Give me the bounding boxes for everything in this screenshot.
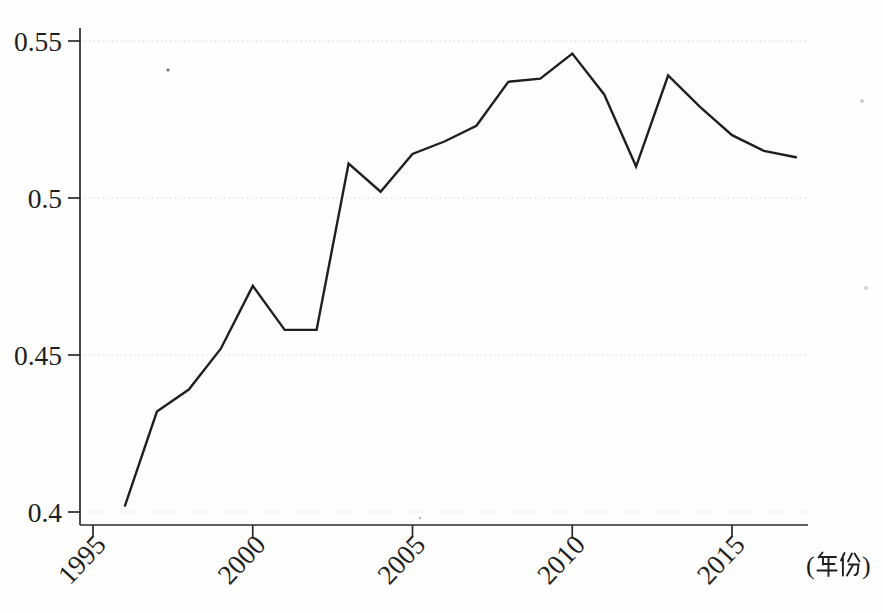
x-axis-unit-label: () <box>806 551 871 580</box>
cjk-glyph-fen <box>841 553 860 576</box>
x-tick-label: 2000 <box>211 529 271 590</box>
line-chart: 0.40.450.50.5519952000200520102015() <box>0 0 883 613</box>
x-tick-label: 2005 <box>371 529 431 590</box>
y-tick-label: 0.55 <box>14 26 62 57</box>
scan-speck <box>419 517 421 519</box>
scan-speck <box>864 286 868 290</box>
x-tick-label: 1995 <box>51 529 111 590</box>
data-line-series <box>125 54 796 506</box>
svg-text:): ) <box>862 551 871 580</box>
y-tick-label: 0.45 <box>14 340 62 371</box>
y-tick-label: 0.5 <box>28 183 62 214</box>
cjk-glyph-nian <box>818 553 837 577</box>
x-tick-label: 2010 <box>531 529 591 590</box>
line-chart-figure: (年份) 0.40.450.50.5519952000200520102015(… <box>0 0 883 613</box>
scan-speck <box>860 99 864 103</box>
x-tick-label: 2015 <box>690 529 750 590</box>
y-tick-label: 0.4 <box>28 497 63 528</box>
svg-text:(: ( <box>806 551 815 580</box>
scan-speck <box>166 68 169 71</box>
